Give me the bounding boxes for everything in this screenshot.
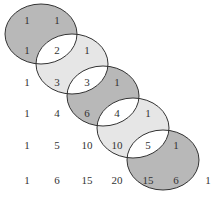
pascal-number: 1 xyxy=(205,174,211,186)
pascal-number: 1 xyxy=(24,107,30,119)
pascal-number: 1 xyxy=(173,139,179,151)
pascal-number: 1 xyxy=(114,76,120,88)
pascal-number: 1 xyxy=(24,174,30,186)
pascal-number: 10 xyxy=(112,139,124,151)
pascal-number: 6 xyxy=(173,174,179,186)
pascal-number: 20 xyxy=(112,174,124,186)
pascal-number: 15 xyxy=(82,174,94,186)
pascal-number: 1 xyxy=(145,107,151,119)
pascal-diagram: 11121133114641151010511615201561 xyxy=(0,0,213,197)
pascal-number: 10 xyxy=(82,139,94,151)
pascal-number: 1 xyxy=(24,76,30,88)
pascal-number: 3 xyxy=(84,76,90,88)
pascal-number: 1 xyxy=(24,44,30,56)
pascal-number: 1 xyxy=(84,44,90,56)
pascal-number: 1 xyxy=(24,139,30,151)
pascal-number: 6 xyxy=(54,174,60,186)
pascal-number: 5 xyxy=(54,139,60,151)
pascal-number: 6 xyxy=(84,107,90,119)
pascal-number: 5 xyxy=(145,139,151,151)
pascal-number: 3 xyxy=(54,76,60,88)
pascal-number: 2 xyxy=(54,44,60,56)
pascal-number: 15 xyxy=(143,174,155,186)
pascal-number: 4 xyxy=(54,107,60,119)
pascal-number: 1 xyxy=(54,14,60,26)
pascal-number: 4 xyxy=(114,107,120,119)
pascal-number: 1 xyxy=(24,14,30,26)
